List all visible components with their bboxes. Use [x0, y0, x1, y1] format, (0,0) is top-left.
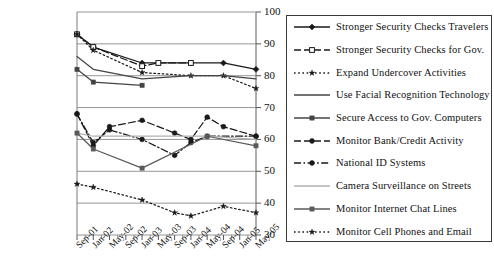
- legend-item[interactable]: Monitor Internet Chat Lines: [287, 198, 491, 221]
- legend-item[interactable]: Stronger Security Checks Travelers: [287, 16, 491, 39]
- series-0: [74, 31, 259, 72]
- chart-legend: Stronger Security Checks TravelersStrong…: [286, 15, 492, 242]
- legend-marker-icon: [292, 111, 332, 125]
- y-axis-tick-label: 60: [264, 132, 275, 144]
- y-axis-tick-label: 80: [264, 69, 275, 81]
- legend-item-label: Camera Surveillance on Streets: [336, 180, 471, 192]
- chart-root: Stronger Security Checks TravelersStrong…: [0, 0, 494, 280]
- legend-marker-icon: [292, 134, 332, 148]
- legend-item-label: Monitor Internet Chat Lines: [336, 203, 457, 215]
- legend-marker-icon: [292, 156, 332, 170]
- y-axis-tick-label: 50: [264, 164, 275, 176]
- series-5: [75, 112, 259, 149]
- legend-item[interactable]: Monitor Bank/Credit Activity: [287, 129, 491, 152]
- legend-marker-icon: [292, 66, 332, 80]
- legend-marker-icon: [292, 179, 332, 193]
- series-9: [74, 181, 259, 218]
- legend-item-label: Stronger Security Checks Travelers: [336, 21, 488, 33]
- y-axis-tick-label: 100: [264, 5, 281, 17]
- legend-item-label: National ID Systems: [336, 157, 425, 169]
- legend-item-label: Expand Undercover Activities: [336, 67, 466, 79]
- legend-marker-icon: [292, 88, 332, 102]
- legend-item[interactable]: Secure Access to Gov. Computers: [287, 107, 491, 130]
- legend-item[interactable]: National ID Systems: [287, 152, 491, 175]
- legend-marker-icon: [292, 225, 332, 239]
- legend-marker-icon: [292, 20, 332, 34]
- legend-marker-icon: [292, 43, 332, 57]
- legend-item[interactable]: Use Facial Recognition Technology: [287, 84, 491, 107]
- legend-item-label: Monitor Bank/Credit Activity: [336, 135, 464, 147]
- y-axis-tick-label: 90: [264, 37, 275, 49]
- legend-item-label: Stronger Security Checks for Gov.: [336, 44, 484, 56]
- legend-marker-icon: [292, 202, 332, 216]
- y-axis-tick-label: 40: [264, 196, 275, 208]
- legend-item[interactable]: Camera Surveillance on Streets: [287, 175, 491, 198]
- legend-item[interactable]: Expand Undercover Activities: [287, 61, 491, 84]
- legend-item[interactable]: Stronger Security Checks for Gov.: [287, 39, 491, 62]
- legend-item-label: Secure Access to Gov. Computers: [336, 112, 482, 124]
- y-axis-tick-label: 70: [264, 101, 275, 113]
- legend-item-label: Use Facial Recognition Technology: [336, 89, 490, 101]
- legend-item-label: Monitor Cell Phones and Email: [336, 226, 472, 238]
- legend-item[interactable]: Monitor Cell Phones and Email: [287, 220, 491, 243]
- series-2: [74, 31, 259, 91]
